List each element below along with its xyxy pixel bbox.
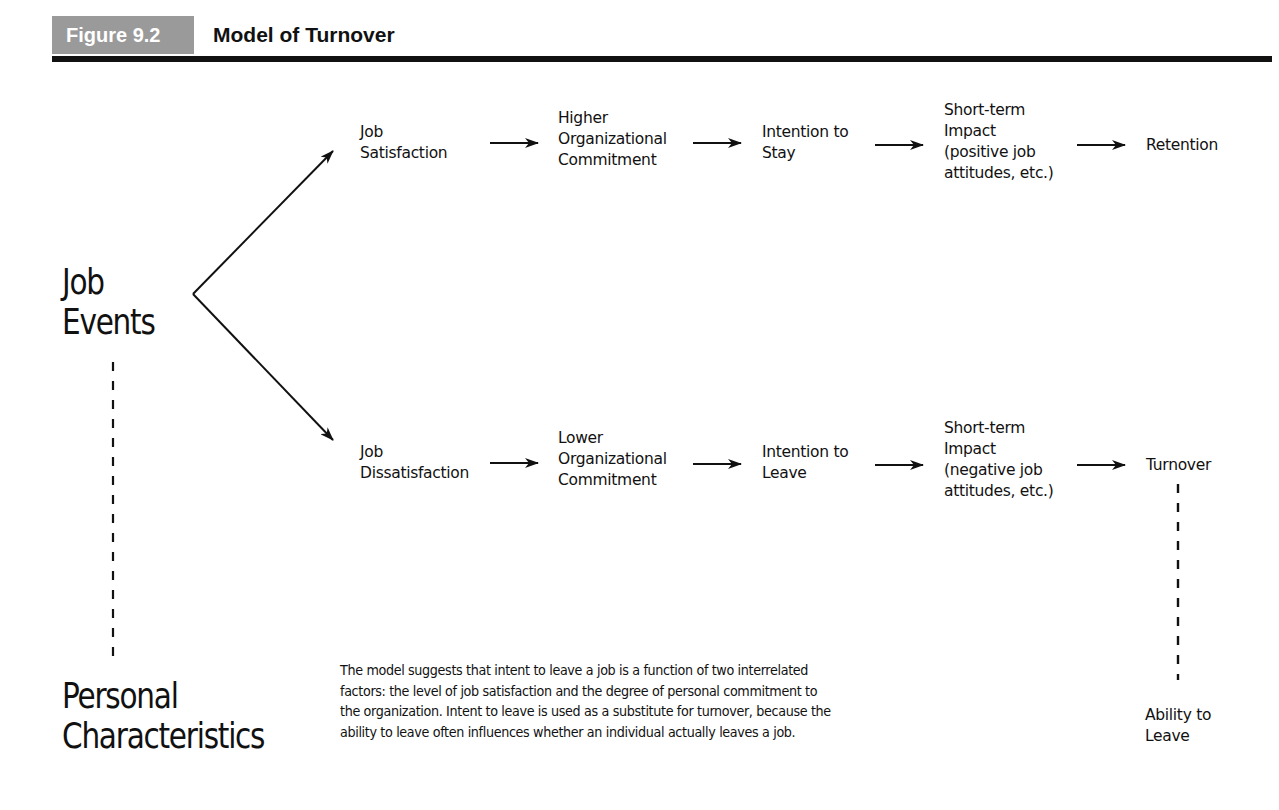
node-short-term-negative: Short-term Impact (negative job attitude… — [944, 418, 1053, 502]
node-short-term-positive: Short-term Impact (positive job attitude… — [944, 100, 1053, 184]
node-ability-to-leave: Ability to Leave — [1145, 705, 1211, 747]
node-turnover: Turnover — [1146, 455, 1211, 476]
node-job-satisfaction: Job Satisfaction — [360, 122, 447, 164]
branch-arrows — [193, 151, 333, 440]
node-higher-commitment: Higher Organizational Commitment — [558, 108, 667, 171]
node-job-dissatisfaction: Job Dissatisfaction — [360, 442, 469, 484]
node-intention-leave: Intention to Leave — [762, 442, 848, 484]
personal-characteristics-label: Personal Characteristics — [62, 676, 264, 756]
node-lower-commitment: Lower Organizational Commitment — [558, 428, 667, 491]
figure-caption: The model suggests that intent to leave … — [340, 660, 833, 742]
node-intention-stay: Intention to Stay — [762, 122, 848, 164]
job-events-label: Job Events — [62, 262, 155, 342]
node-retention: Retention — [1146, 135, 1218, 156]
